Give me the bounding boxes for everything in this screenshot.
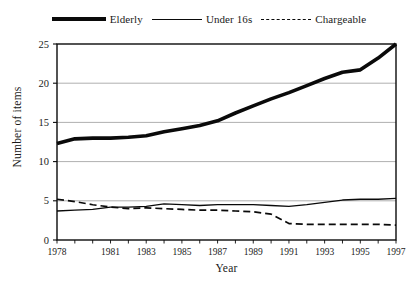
x-tick-label: 1995	[351, 247, 370, 257]
y-axis-title: Number of items	[11, 67, 23, 187]
y-tick-label: 25	[39, 39, 50, 50]
y-tick-label: 20	[39, 78, 50, 89]
x-tick-label: 1983	[137, 247, 156, 257]
x-tick-label: 1993	[315, 247, 334, 257]
data-series-under-16s	[57, 198, 396, 211]
y-tick-label: 5	[44, 195, 49, 206]
data-series-chargeable	[57, 199, 396, 225]
plot-area: 0510152025 19781981198319851987198919911…	[0, 0, 418, 285]
x-tick-label: 1978	[48, 247, 67, 257]
chart-svg: 0510152025 19781981198319851987198919911…	[0, 0, 418, 285]
x-tick-label: 1991	[279, 247, 298, 257]
y-tick-label: 0	[44, 235, 49, 246]
x-tick-label: 1981	[101, 247, 120, 257]
data-series-layer	[57, 44, 396, 225]
y-axis-ticks: 0510152025	[39, 39, 58, 246]
x-tick-label: 1985	[172, 247, 191, 257]
data-series-elderly	[57, 44, 396, 144]
x-axis-title: Year	[57, 262, 396, 274]
x-tick-label: 1987	[208, 247, 227, 257]
gridlines	[57, 83, 396, 201]
chart-figure: Elderly Under 16s Chargeable 0510152025 …	[0, 0, 418, 285]
y-tick-label: 10	[39, 156, 50, 167]
x-tick-label: 1997	[387, 247, 406, 257]
y-tick-label: 15	[39, 117, 50, 128]
x-axis-ticks: 1978198119831985198719891991199319951997	[48, 240, 406, 257]
x-tick-label: 1989	[244, 247, 263, 257]
